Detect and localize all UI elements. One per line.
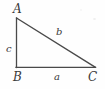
side-label-b: b <box>56 27 62 37</box>
scan-artifact-speck <box>80 9 82 11</box>
triangle-figure: A B C a b c <box>0 0 105 89</box>
side-label-a: a <box>54 72 60 82</box>
scan-artifact-speck <box>93 18 96 20</box>
vertex-label-c: C <box>88 71 97 83</box>
vertex-label-a: A <box>13 3 22 15</box>
side-label-c: c <box>6 44 12 54</box>
vertex-label-b: B <box>13 71 22 83</box>
